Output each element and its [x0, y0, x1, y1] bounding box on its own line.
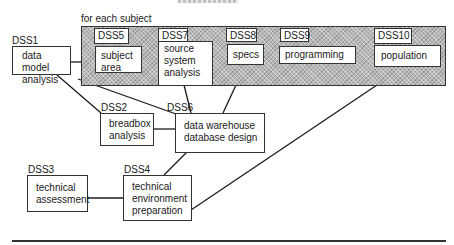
dss5-tag: DSS5: [94, 28, 129, 44]
node-dss7[interactable]: source system analysis: [158, 41, 213, 86]
node-dss9[interactable]: programming: [279, 46, 356, 64]
node-dss8[interactable]: specs: [227, 44, 264, 65]
node-dss4[interactable]: technical environment preparation: [123, 175, 192, 221]
node-dss10[interactable]: population: [374, 45, 441, 67]
dss6-tag: DSS6: [167, 102, 193, 113]
node-dss1[interactable]: data model analysis: [12, 46, 71, 75]
edge-dss6-dss4: [164, 152, 187, 175]
dss4-tag: DSS4: [124, 164, 150, 175]
node-dss3[interactable]: technical assessment: [27, 175, 88, 212]
dss1-tag: DSS1: [12, 35, 38, 46]
group-label: for each subject: [81, 13, 152, 24]
dss9-tag: DSS9: [280, 28, 309, 42]
dss3-tag: DSS3: [28, 164, 54, 175]
node-dss5[interactable]: subject area: [95, 46, 142, 73]
dss10-tag: DSS10: [374, 28, 412, 44]
node-dss2[interactable]: breadbox analysis: [100, 113, 154, 146]
node-dss6[interactable]: data warehouse database design: [175, 113, 265, 153]
dss8-tag: DSS8: [226, 28, 257, 42]
dss7-tag: DSS7: [158, 28, 188, 42]
edge-dss8-dss6: [223, 85, 236, 113]
dss2-tag: DSS2: [101, 102, 127, 113]
